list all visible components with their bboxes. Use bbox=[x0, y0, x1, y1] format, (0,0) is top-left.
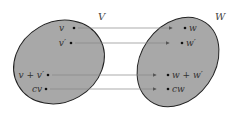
vector-vprime-label: v′ bbox=[59, 38, 66, 48]
vector-wprime-label: w′ bbox=[186, 38, 196, 48]
vector-sum-v-dot bbox=[47, 74, 50, 77]
vector-cw-dot bbox=[167, 88, 170, 91]
linear-map-diagram: V W v w v′ w′ v + v′ w + w′ cv cw bbox=[0, 0, 233, 116]
vector-cv-label: cv bbox=[32, 84, 42, 94]
vector-v-label: v bbox=[59, 23, 64, 33]
vector-sum-v-label: v + v′ bbox=[19, 70, 44, 80]
vector-wprime-dot bbox=[181, 42, 184, 45]
vector-w-label: w bbox=[189, 23, 197, 33]
vector-vprime-dot bbox=[70, 42, 73, 45]
vector-cw-label: cw bbox=[172, 84, 185, 94]
set-v-label: V bbox=[98, 11, 107, 22]
vector-sum-w-label: w + w′ bbox=[172, 70, 203, 80]
vector-sum-w-dot bbox=[167, 74, 170, 77]
vector-w-dot bbox=[184, 27, 187, 30]
vector-cv-dot bbox=[45, 88, 48, 91]
vector-v-dot bbox=[73, 27, 76, 30]
set-w-label: W bbox=[215, 11, 226, 22]
